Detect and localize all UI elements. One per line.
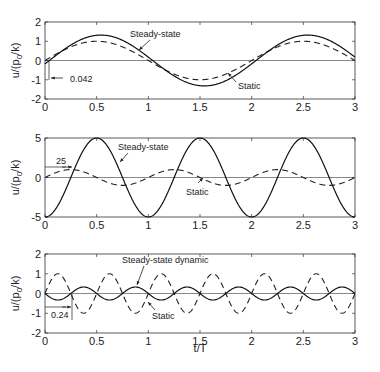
y-axis-label: u/(p0/k) bbox=[9, 276, 24, 312]
x-tick-label: 3 bbox=[352, 335, 358, 347]
static-label: Static bbox=[186, 187, 209, 197]
x-tick-label: 0 bbox=[42, 101, 48, 113]
y-axis-label: u/(p0/k) bbox=[9, 43, 24, 79]
x-tick-label: 2 bbox=[249, 335, 255, 347]
x-tick-label: 1 bbox=[145, 219, 151, 231]
x-tick-label: 2.5 bbox=[296, 101, 311, 113]
x-tick-label: 0.5 bbox=[89, 101, 104, 113]
y-tick-label: 0 bbox=[35, 55, 41, 67]
x-tick-label: 3 bbox=[352, 219, 358, 231]
lag-label: 25 bbox=[56, 156, 66, 166]
static-label: Static bbox=[152, 311, 175, 321]
y-tick-label: -2 bbox=[31, 327, 41, 339]
x-tick-label: 2 bbox=[249, 219, 255, 231]
x-tick-label: 0 bbox=[42, 335, 48, 347]
x-tick-label: 2.5 bbox=[296, 335, 311, 347]
figure: 00.511.522.53210-1-2u/(p0/k)00.511.522.5… bbox=[0, 0, 380, 372]
plot-panel-1: 00.511.522.53210-1-2u/(p0/k) bbox=[9, 16, 358, 113]
x-tick-label: 2 bbox=[249, 101, 255, 113]
x-tick-label: 0.5 bbox=[89, 219, 104, 231]
y-tick-label: -2 bbox=[31, 93, 41, 105]
x-tick-label: 1 bbox=[145, 335, 151, 347]
x-tick-label: 1 bbox=[145, 101, 151, 113]
y-tick-label: -1 bbox=[31, 74, 41, 86]
static-label: Static bbox=[238, 81, 261, 91]
x-tick-label: 1.5 bbox=[192, 101, 207, 113]
y-tick-label: -1 bbox=[31, 307, 41, 319]
x-tick-label: 2.5 bbox=[296, 219, 311, 231]
y-tick-label: 2 bbox=[35, 248, 41, 260]
plot-panel-2: 00.511.522.5350-5u/(p0/k) bbox=[9, 132, 358, 231]
x-tick-label: 0 bbox=[42, 219, 48, 231]
lag-label: 0.24 bbox=[51, 310, 69, 320]
steady-state-label: Steady-state dynamic bbox=[122, 255, 209, 265]
x-tick-label: 1.5 bbox=[192, 219, 207, 231]
y-tick-label: 1 bbox=[35, 35, 41, 47]
x-tick-label: 3 bbox=[352, 101, 358, 113]
y-tick-label: 5 bbox=[35, 132, 41, 144]
y-tick-label: 2 bbox=[35, 16, 41, 28]
y-tick-label: 1 bbox=[35, 268, 41, 280]
y-tick-label: 0 bbox=[35, 172, 41, 184]
y-tick-label: -5 bbox=[31, 211, 41, 223]
steady-state-label: Steady-state bbox=[118, 142, 169, 152]
lag-label: 0.042 bbox=[70, 74, 93, 84]
x-axis-label: t/T bbox=[194, 342, 207, 354]
steady-state-label: Steady-state bbox=[130, 29, 181, 39]
y-axis-label: u/(p0/k) bbox=[9, 160, 24, 196]
y-tick-label: 0 bbox=[35, 288, 41, 300]
x-tick-label: 0.5 bbox=[89, 335, 104, 347]
